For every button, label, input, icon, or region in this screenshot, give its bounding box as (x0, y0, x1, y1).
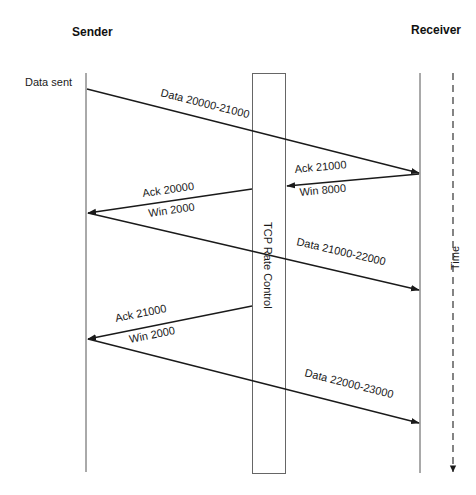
message-ack-1-rewritten: Ack 20000 Win 2000 (88, 180, 252, 219)
message-label-2: Win 2000 (128, 324, 176, 345)
message-ack-1: Ack 21000 Win 8000 (287, 158, 419, 198)
data-sent-label: Data sent (25, 76, 72, 88)
message-label: Ack 21000 (114, 302, 167, 324)
sequence-diagram: Sender Receiver Data sent TCP Rate Contr… (0, 0, 476, 495)
message-label: Data 21000-22000 (296, 235, 388, 267)
ack-arrow (287, 174, 419, 186)
time-label: Time (449, 246, 461, 270)
message-ack-2-rewritten: Ack 21000 Win 2000 (88, 302, 252, 345)
receiver-heading: Receiver (411, 23, 461, 37)
sender-heading: Sender (72, 25, 113, 39)
tcp-rate-control-box: TCP Rate Control (253, 74, 286, 474)
message-label: Data 20000-21000 (160, 86, 251, 120)
middlebox-label: TCP Rate Control (262, 222, 274, 309)
message-label: Ack 21000 (294, 158, 347, 175)
message-label: Ack 20000 (142, 180, 195, 199)
message-label: Data 22000-23000 (304, 366, 395, 400)
